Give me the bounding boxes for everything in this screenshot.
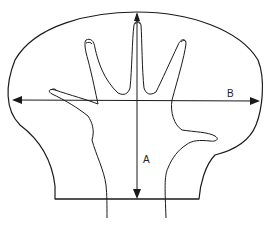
hand-diagram (0, 0, 268, 226)
label-b: B (227, 88, 234, 99)
arrow-a-bottom-head-icon (133, 189, 141, 199)
arrow-b-left-head-icon (12, 96, 22, 104)
label-a: A (143, 154, 150, 165)
hand-drawing (49, 21, 217, 218)
arrow-b-line (14, 100, 258, 101)
outline-shape (8, 12, 262, 199)
arrow-b-right-head-icon (250, 97, 260, 105)
arrow-a-top-head-icon (134, 12, 140, 21)
